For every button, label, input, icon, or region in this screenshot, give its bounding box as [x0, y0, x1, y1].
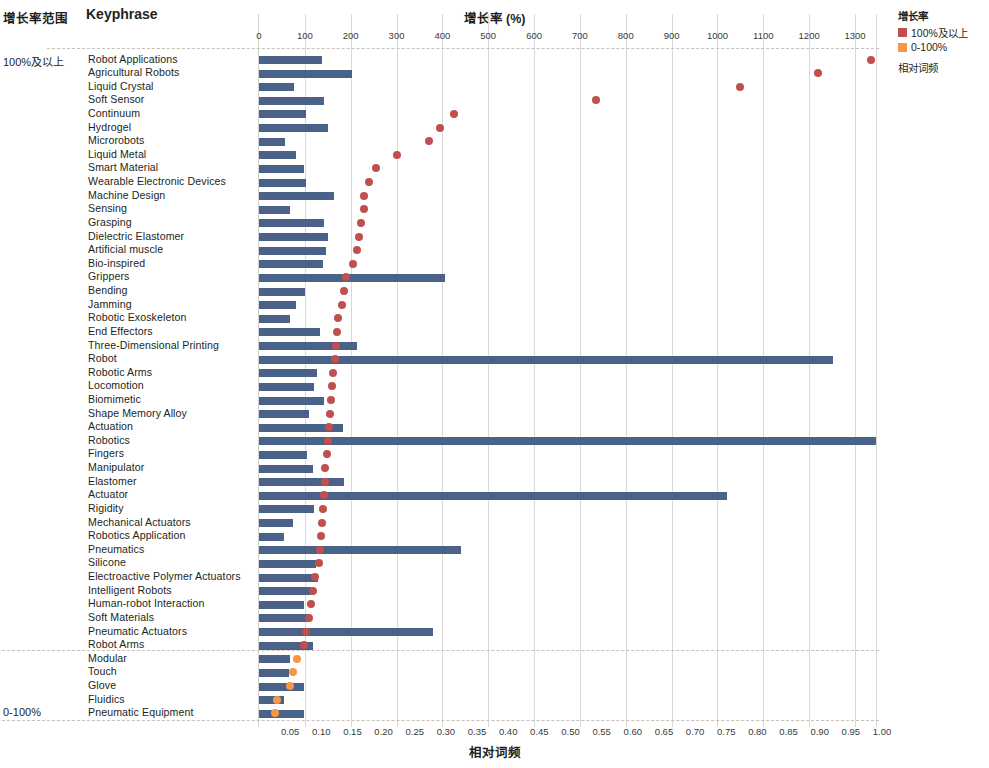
growth-rate-dot[interactable]	[736, 83, 744, 91]
chart-row[interactable]: Intelligent Robots	[0, 585, 989, 599]
growth-rate-dot[interactable]	[307, 600, 315, 608]
growth-rate-dot[interactable]	[324, 437, 332, 445]
growth-rate-dot[interactable]	[357, 219, 365, 227]
chart-row[interactable]: Robotics	[0, 435, 989, 449]
growth-rate-dot[interactable]	[450, 110, 458, 118]
growth-rate-dot[interactable]	[372, 164, 380, 172]
chart-row[interactable]: Robotic Arms	[0, 367, 989, 381]
frequency-bar[interactable]	[259, 574, 318, 582]
chart-row[interactable]: Biomimetic	[0, 394, 989, 408]
frequency-bar[interactable]	[259, 233, 328, 241]
growth-rate-dot[interactable]	[340, 287, 348, 295]
frequency-bar[interactable]	[259, 437, 876, 445]
growth-rate-dot[interactable]	[311, 573, 319, 581]
chart-row[interactable]: Shape Memory Alloy	[0, 408, 989, 422]
growth-rate-dot[interactable]	[425, 137, 433, 145]
frequency-bar[interactable]	[259, 505, 314, 513]
chart-row[interactable]: Grippers	[0, 271, 989, 285]
frequency-bar[interactable]	[259, 260, 323, 268]
chart-row[interactable]: Sensing	[0, 203, 989, 217]
frequency-bar[interactable]	[259, 56, 322, 64]
growth-rate-dot[interactable]	[355, 233, 363, 241]
frequency-bar[interactable]	[259, 683, 304, 691]
chart-row[interactable]: Liquid Crystal	[0, 81, 989, 95]
growth-rate-dot[interactable]	[273, 696, 281, 704]
growth-rate-dot[interactable]	[293, 655, 301, 663]
chart-row[interactable]: Electroactive Polymer Actuators	[0, 571, 989, 585]
frequency-bar[interactable]	[259, 151, 296, 159]
chart-row[interactable]: Agricultural Robots	[0, 67, 989, 81]
chart-row[interactable]: Mechanical Actuators	[0, 517, 989, 531]
frequency-bar[interactable]	[259, 451, 307, 459]
chart-row[interactable]: Glove	[0, 680, 989, 694]
frequency-bar[interactable]	[259, 601, 304, 609]
frequency-bar[interactable]	[259, 465, 313, 473]
chart-row[interactable]: Rigidity	[0, 503, 989, 517]
growth-rate-dot[interactable]	[349, 260, 357, 268]
growth-rate-dot[interactable]	[321, 464, 329, 472]
frequency-bar[interactable]	[259, 97, 324, 105]
chart-row[interactable]: Smart Material	[0, 162, 989, 176]
chart-row[interactable]: Pneumatics	[0, 544, 989, 558]
frequency-bar[interactable]	[259, 124, 328, 132]
growth-rate-dot[interactable]	[365, 178, 373, 186]
chart-row[interactable]: Elastomer	[0, 476, 989, 490]
chart-row[interactable]: Fluidics	[0, 694, 989, 708]
growth-rate-dot[interactable]	[867, 56, 875, 64]
growth-rate-dot[interactable]	[353, 246, 361, 254]
frequency-bar[interactable]	[259, 288, 305, 296]
chart-row[interactable]: Robot Arms	[0, 639, 989, 653]
chart-row[interactable]: Silicone	[0, 557, 989, 571]
chart-row[interactable]: Manipulator	[0, 462, 989, 476]
chart-row[interactable]: Pneumatic Equipment	[0, 707, 989, 721]
frequency-bar[interactable]	[259, 669, 289, 677]
growth-rate-dot[interactable]	[393, 151, 401, 159]
chart-row[interactable]: Fingers	[0, 448, 989, 462]
frequency-bar[interactable]	[259, 192, 334, 200]
growth-rate-dot[interactable]	[305, 614, 313, 622]
chart-row[interactable]: Soft Sensor	[0, 94, 989, 108]
frequency-bar[interactable]	[259, 247, 326, 255]
growth-rate-dot[interactable]	[592, 96, 600, 104]
growth-rate-dot[interactable]	[320, 491, 328, 499]
growth-rate-dot[interactable]	[333, 328, 341, 336]
growth-rate-dot[interactable]	[309, 587, 317, 595]
chart-row[interactable]: Continuum	[0, 108, 989, 122]
frequency-bar[interactable]	[259, 219, 324, 227]
chart-row[interactable]: Wearable Electronic Devices	[0, 176, 989, 190]
frequency-bar[interactable]	[259, 301, 296, 309]
chart-row[interactable]: Robot	[0, 353, 989, 367]
growth-rate-dot[interactable]	[289, 668, 297, 676]
frequency-bar[interactable]	[259, 110, 306, 118]
growth-rate-dot[interactable]	[316, 546, 324, 554]
chart-row[interactable]: Dielectric Elastomer	[0, 231, 989, 245]
chart-row[interactable]: Robotic Exoskeleton	[0, 312, 989, 326]
growth-rate-dot[interactable]	[329, 369, 337, 377]
frequency-bar[interactable]	[259, 383, 314, 391]
frequency-bar[interactable]	[259, 410, 309, 418]
chart-row[interactable]: Soft Materials	[0, 612, 989, 626]
growth-rate-dot[interactable]	[342, 273, 350, 281]
chart-row[interactable]: Locomotion	[0, 380, 989, 394]
growth-rate-dot[interactable]	[319, 505, 327, 513]
growth-rate-dot[interactable]	[321, 478, 329, 486]
growth-rate-dot[interactable]	[331, 355, 339, 363]
frequency-bar[interactable]	[259, 369, 317, 377]
growth-rate-dot[interactable]	[334, 314, 342, 322]
frequency-bar[interactable]	[259, 533, 284, 541]
frequency-bar[interactable]	[259, 342, 357, 350]
growth-rate-dot[interactable]	[436, 124, 444, 132]
growth-rate-dot[interactable]	[323, 450, 331, 458]
chart-row[interactable]: Microrobots	[0, 135, 989, 149]
frequency-bar[interactable]	[259, 546, 461, 554]
frequency-bar[interactable]	[259, 655, 290, 663]
frequency-bar[interactable]	[259, 560, 316, 568]
growth-rate-dot[interactable]	[360, 205, 368, 213]
frequency-bar[interactable]	[259, 587, 311, 595]
chart-row[interactable]: Pneumatic Actuators	[0, 626, 989, 640]
growth-rate-dot[interactable]	[327, 396, 335, 404]
frequency-bar[interactable]	[259, 614, 310, 622]
frequency-bar[interactable]	[259, 70, 352, 78]
growth-rate-dot[interactable]	[814, 69, 822, 77]
chart-row[interactable]: Bio-inspired	[0, 258, 989, 272]
